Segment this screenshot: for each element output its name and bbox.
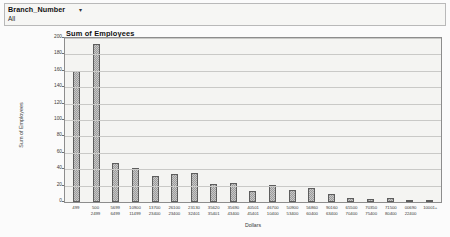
y-tick-mark	[62, 37, 64, 38]
gridline	[65, 153, 441, 154]
bar[interactable]	[171, 174, 178, 202]
bar[interactable]	[387, 198, 394, 202]
x-tick-label: 3569043400	[224, 205, 244, 223]
bar[interactable]	[152, 176, 159, 202]
x-tick-label: 10001+	[420, 205, 440, 223]
x-tick-label: 9016063400	[322, 205, 342, 223]
x-tick-label: 7150080400	[381, 205, 401, 223]
x-tick-label: 5090053400	[283, 205, 303, 223]
y-tick-label: 140	[32, 84, 62, 89]
y-tick-mark	[62, 119, 64, 120]
bar[interactable]	[191, 173, 198, 202]
y-tick-label: 200	[32, 35, 62, 40]
y-tick-mark	[62, 86, 64, 87]
x-axis-title: Dollars	[64, 222, 442, 228]
x-tick-label: 1090011499	[125, 205, 145, 223]
gridline	[65, 169, 441, 170]
y-tick-label: 120	[32, 101, 62, 106]
bar[interactable]	[347, 198, 354, 202]
bar[interactable]	[328, 194, 335, 202]
gridline	[65, 120, 441, 121]
y-tick-mark	[62, 168, 64, 169]
y-tick-label: 20	[32, 183, 62, 188]
chevron-down-icon[interactable]: ▾	[79, 7, 82, 13]
x-tick-label: 2610023400	[164, 205, 184, 223]
bar[interactable]	[269, 185, 276, 202]
bar[interactable]	[210, 184, 217, 202]
plot-area	[64, 37, 442, 203]
x-tick-label: 5002499	[86, 205, 106, 223]
filter-panel: Branch_Number ▾ All	[4, 3, 446, 26]
bar[interactable]	[426, 200, 433, 202]
gridline	[65, 87, 441, 88]
chart-container: Sum of Employees Sum of Employees 020406…	[4, 26, 446, 233]
x-tick-label: 5686060400	[302, 205, 322, 223]
y-tick-mark	[62, 185, 64, 186]
gridline	[65, 54, 441, 55]
x-tick-label: 2313032401	[184, 205, 204, 223]
x-tick-label: 6550070400	[342, 205, 362, 223]
x-tick-label: 0069022400	[401, 205, 421, 223]
y-tick-label: 60	[32, 150, 62, 155]
y-tick-label: 160	[32, 68, 62, 73]
y-tick-label: 40	[32, 166, 62, 171]
x-tick-label: 56996499	[105, 205, 125, 223]
gridline	[65, 136, 441, 137]
y-tick-mark	[62, 53, 64, 54]
bar[interactable]	[406, 200, 413, 202]
x-tick-label: 1370023400	[145, 205, 165, 223]
y-tick-mark	[62, 201, 64, 202]
y-tick-label: 180	[32, 51, 62, 56]
y-tick-label: 100	[32, 117, 62, 122]
y-tick-mark	[62, 70, 64, 71]
y-tick-mark	[62, 103, 64, 104]
y-tick-label: 80	[32, 133, 62, 138]
x-tick-label: 4670010400	[263, 205, 283, 223]
y-axis-ticks: 020406080100120140160180200	[30, 37, 62, 203]
bar[interactable]	[289, 190, 296, 202]
chart-page: Branch_Number ▾ All Sum of Employees Sum…	[0, 0, 450, 237]
y-tick-mark	[62, 152, 64, 153]
x-tick-label: 3562035401	[204, 205, 224, 223]
bar[interactable]	[308, 188, 315, 202]
filter-field-label[interactable]: Branch_Number	[8, 5, 65, 14]
x-tick-label: 7035075400	[361, 205, 381, 223]
gridline	[65, 71, 441, 72]
y-axis-title: Sum of Employees	[18, 95, 24, 155]
gridline	[65, 38, 441, 39]
x-tick-label: 4050145401	[243, 205, 263, 223]
y-tick-label: 0	[32, 199, 62, 204]
y-tick-mark	[62, 135, 64, 136]
bar[interactable]	[93, 44, 100, 202]
x-axis-ticks: 4995002499569964991090011499137002340026…	[64, 205, 442, 223]
bar[interactable]	[249, 191, 256, 202]
gridline	[65, 104, 441, 105]
x-tick-label: 499	[66, 205, 86, 223]
filter-selected-value[interactable]: All	[8, 15, 15, 22]
bar[interactable]	[367, 199, 374, 202]
gridline	[65, 186, 441, 187]
